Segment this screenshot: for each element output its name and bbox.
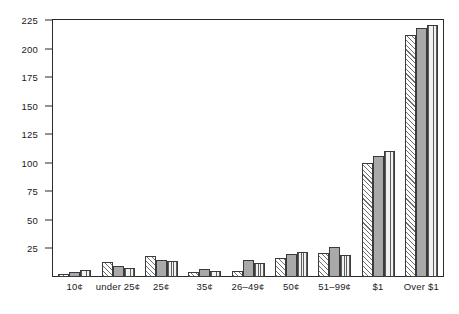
bars-layer bbox=[53, 20, 443, 277]
x-axis-tick-label: 10¢ bbox=[66, 281, 82, 292]
bar bbox=[80, 270, 91, 277]
bar bbox=[199, 269, 210, 277]
bar bbox=[275, 258, 286, 277]
y-axis-tick-mark bbox=[45, 219, 52, 220]
bar-group bbox=[361, 20, 396, 277]
bar bbox=[69, 272, 80, 277]
bar bbox=[254, 263, 265, 277]
bar bbox=[232, 271, 243, 277]
bar bbox=[384, 151, 395, 277]
bar-group bbox=[144, 20, 179, 277]
bar-group bbox=[187, 20, 222, 277]
bar-group bbox=[231, 20, 266, 277]
bar-group bbox=[101, 20, 136, 277]
y-axis-tick-mark bbox=[45, 134, 52, 135]
y-axis-tick-label: 25 bbox=[27, 243, 38, 254]
x-axis-tick-label: Over $1 bbox=[404, 281, 439, 292]
x-axis-tick-label: 50¢ bbox=[283, 281, 299, 292]
y-axis-tick-mark bbox=[45, 48, 52, 49]
bar-chart: 255075100125150175200225 10¢under 25¢25¢… bbox=[0, 0, 459, 314]
y-axis-tick-mark bbox=[45, 162, 52, 163]
x-axis-tick-label: 35¢ bbox=[196, 281, 212, 292]
x-axis: 10¢under 25¢25¢35¢26–49¢50¢51–99¢$1Over … bbox=[53, 281, 443, 303]
x-axis-tick-label: under 25¢ bbox=[96, 281, 141, 292]
y-axis-tick-label: 125 bbox=[22, 129, 38, 140]
bar bbox=[427, 25, 438, 277]
y-axis-tick-mark bbox=[45, 77, 52, 78]
x-axis-tick-label: 25¢ bbox=[153, 281, 169, 292]
y-axis-tick-label: 100 bbox=[22, 157, 38, 168]
bar bbox=[156, 260, 167, 277]
bar bbox=[416, 28, 427, 277]
bar bbox=[340, 255, 351, 277]
bar bbox=[318, 253, 329, 277]
y-axis-tick-label: 75 bbox=[27, 186, 38, 197]
y-axis-tick-label: 50 bbox=[27, 214, 38, 225]
bar bbox=[102, 262, 113, 277]
bar bbox=[188, 272, 199, 277]
bar-group bbox=[404, 20, 439, 277]
bar bbox=[362, 163, 373, 277]
bar bbox=[297, 252, 308, 277]
y-axis-tick-label: 150 bbox=[22, 100, 38, 111]
bar bbox=[286, 254, 297, 277]
y-axis-tick-mark bbox=[45, 191, 52, 192]
bar-group bbox=[317, 20, 352, 277]
bar-group bbox=[57, 20, 92, 277]
bar bbox=[124, 268, 135, 277]
bar bbox=[329, 247, 340, 277]
bar bbox=[373, 156, 384, 277]
y-axis: 255075100125150175200225 bbox=[0, 0, 52, 314]
y-axis-tick-mark bbox=[45, 105, 52, 106]
bar bbox=[58, 274, 69, 277]
bar bbox=[210, 271, 221, 277]
y-axis-tick-mark bbox=[45, 248, 52, 249]
y-axis-tick-label: 175 bbox=[22, 72, 38, 83]
y-axis-tick-label: 225 bbox=[22, 15, 38, 26]
x-axis-tick-label: 51–99¢ bbox=[318, 281, 351, 292]
bar bbox=[405, 35, 416, 277]
x-axis-tick-label: 26–49¢ bbox=[232, 281, 265, 292]
y-axis-tick-label: 200 bbox=[22, 43, 38, 54]
x-axis-tick-label: $1 bbox=[373, 281, 384, 292]
bar bbox=[167, 261, 178, 277]
bar bbox=[145, 256, 156, 277]
y-axis-tick-mark bbox=[45, 20, 52, 21]
bar bbox=[243, 260, 254, 277]
bar bbox=[113, 266, 124, 277]
bar-group bbox=[274, 20, 309, 277]
